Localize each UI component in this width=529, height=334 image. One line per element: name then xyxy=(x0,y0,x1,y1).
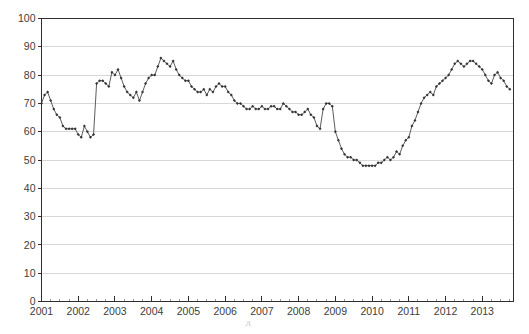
svg-text:2006: 2006 xyxy=(213,305,237,317)
svg-text:2008: 2008 xyxy=(287,305,311,317)
svg-text:80: 80 xyxy=(24,69,36,81)
svg-text:90: 90 xyxy=(24,40,36,52)
svg-text:2010: 2010 xyxy=(360,305,384,317)
svg-text:50: 50 xyxy=(24,154,36,166)
svg-text:70: 70 xyxy=(24,97,36,109)
svg-text:2003: 2003 xyxy=(103,305,127,317)
data-series-markers xyxy=(40,57,511,168)
x-axis-tick-labels: 2001200220032004200520062007200820092010… xyxy=(30,305,494,317)
svg-text:2005: 2005 xyxy=(177,305,201,317)
svg-text:2011: 2011 xyxy=(398,305,421,317)
svg-text:2004: 2004 xyxy=(140,305,164,317)
svg-text:2001: 2001 xyxy=(30,305,54,317)
svg-text:40: 40 xyxy=(24,182,36,194)
svg-text:2013: 2013 xyxy=(471,305,495,317)
svg-text:100: 100 xyxy=(18,12,36,24)
x-tick-marks-group xyxy=(42,296,510,302)
svg-text:2012: 2012 xyxy=(434,305,458,317)
svg-text:30: 30 xyxy=(24,210,36,222)
svg-text:10: 10 xyxy=(24,267,36,279)
chart-figure: 1009080706050403020100 20012002200320042… xyxy=(0,0,529,334)
svg-text:60: 60 xyxy=(24,125,36,137)
svg-text:20: 20 xyxy=(24,239,36,251)
line-chart-plot: 1009080706050403020100 20012002200320042… xyxy=(0,0,529,334)
y-axis-tick-labels: 1009080706050403020100 xyxy=(18,12,36,307)
svg-text:2007: 2007 xyxy=(250,305,274,317)
watermark-glyph: д xyxy=(246,316,260,328)
data-series-line xyxy=(42,58,510,166)
svg-text:2009: 2009 xyxy=(324,305,348,317)
svg-text:2002: 2002 xyxy=(67,305,91,317)
